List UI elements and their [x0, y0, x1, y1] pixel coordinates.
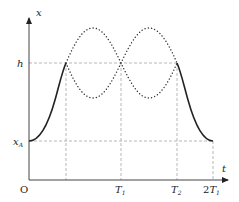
solid-rise-curve — [29, 63, 66, 141]
origin-label: O — [20, 184, 28, 195]
xa-label: xA — [13, 136, 24, 148]
2t1-label: 2T1 — [203, 184, 220, 196]
motion-diagram: x t O h xA T1 T2 2T1 — [0, 0, 239, 202]
h-label: h — [17, 58, 23, 69]
x-axis-label: t — [222, 163, 227, 174]
guide-lines — [29, 63, 213, 180]
t1-label: T1 — [115, 184, 126, 196]
solid-fall-curve — [177, 63, 213, 141]
y-axis-label: x — [36, 7, 42, 18]
t2-label: T2 — [171, 184, 182, 196]
